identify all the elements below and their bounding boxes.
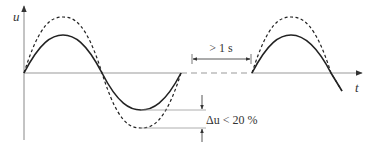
x-axis-label: t bbox=[355, 80, 359, 95]
interruption-label: > 1 s bbox=[209, 41, 233, 55]
dip-label: Δu < 20 % bbox=[206, 113, 257, 127]
y-axis-label: u bbox=[13, 9, 20, 24]
nominal-curve-2 bbox=[252, 17, 342, 91]
reduced-curve-2 bbox=[252, 35, 342, 91]
voltage-dip-diagram: > 1 s Δu < 20 % u t bbox=[0, 0, 382, 149]
